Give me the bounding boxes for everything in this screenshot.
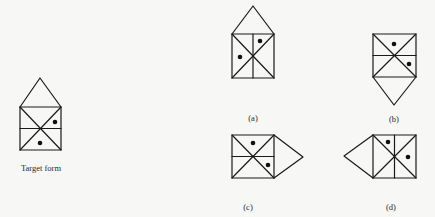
dot-marker xyxy=(238,55,243,60)
triangle-roof xyxy=(274,135,303,178)
option-a-label: (a) xyxy=(248,113,257,123)
option-a-shape[interactable] xyxy=(232,6,274,78)
triangle-roof xyxy=(232,6,274,34)
dot-marker xyxy=(251,141,256,146)
dot-marker xyxy=(38,141,43,146)
figure-canvas xyxy=(0,0,435,217)
option-c-label: (c) xyxy=(243,202,252,212)
target-form-label: Target form xyxy=(21,163,61,173)
dot-marker xyxy=(386,140,391,145)
dot-marker xyxy=(258,39,263,44)
target-form-shape xyxy=(20,78,61,150)
dot-marker xyxy=(53,120,58,125)
option-d-label: (d) xyxy=(386,202,396,212)
option-d-shape[interactable] xyxy=(344,135,416,178)
triangle-roof xyxy=(20,78,61,107)
dot-marker xyxy=(407,62,412,67)
triangle-roof xyxy=(373,77,416,105)
dot-marker xyxy=(406,155,411,160)
option-b-shape[interactable] xyxy=(373,34,416,105)
option-c-shape[interactable] xyxy=(232,135,303,178)
option-b-label: (b) xyxy=(389,114,399,124)
dot-marker xyxy=(266,163,271,168)
triangle-roof xyxy=(344,135,373,178)
dot-marker xyxy=(392,42,397,47)
